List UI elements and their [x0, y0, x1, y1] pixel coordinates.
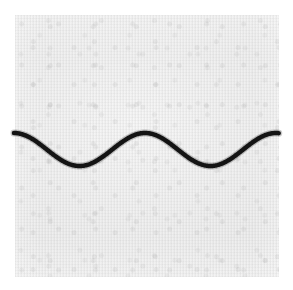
scan-line-texture [15, 15, 279, 277]
scan-grain-texture [15, 15, 279, 277]
figure-root [0, 0, 293, 290]
scanned-paper-panel [15, 15, 279, 277]
